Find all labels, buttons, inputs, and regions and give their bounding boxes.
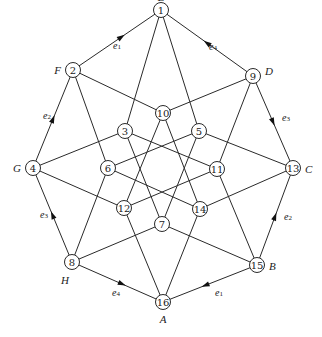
vertex-label-E: E: [157, 0, 165, 3]
vertex-letter-labels: EFGHDCBA: [13, 0, 313, 325]
edge-label-e3: e3: [40, 209, 48, 221]
edge-label-e3: e3: [282, 112, 290, 124]
arrowhead-icon: [117, 280, 126, 288]
node-4: 4: [26, 161, 41, 176]
node-13: 13: [286, 161, 301, 176]
edge-label-e2: e2: [43, 110, 51, 122]
edge-9-10: [163, 76, 253, 113]
arrowhead-icon: [117, 33, 127, 42]
node-number: 8: [69, 257, 75, 268]
edge-label-e1: e1: [113, 40, 121, 52]
edge-label-e4: e4: [209, 41, 217, 53]
node-16: 16: [156, 295, 171, 310]
edge-label-e1: e1: [215, 287, 223, 299]
node-number: 15: [251, 260, 264, 271]
node-12: 12: [117, 201, 132, 216]
edge-9-11: [217, 76, 253, 169]
nodes-layer: 12345678910111213141516: [26, 3, 301, 310]
node-number: 11: [211, 164, 224, 175]
arrowhead-icon: [49, 210, 57, 219]
edge-8-7: [72, 224, 162, 262]
node-3: 3: [118, 124, 133, 139]
edge-15-16: [163, 265, 257, 302]
edge-label-e2: e2: [284, 211, 292, 223]
vertex-label-G: G: [13, 162, 21, 174]
edge-label-e4: e4: [112, 287, 120, 299]
node-number: 9: [250, 71, 256, 82]
node-7: 7: [155, 217, 170, 232]
arrowhead-icon: [269, 117, 277, 126]
node-8: 8: [65, 255, 80, 270]
node-number: 1: [158, 5, 164, 16]
arrowhead-icon: [201, 281, 210, 289]
tesseract-diagram: 12345678910111213141516 EFGHDCBA e1e4e2e…: [0, 0, 322, 337]
node-number: 5: [196, 126, 202, 137]
node-number: 16: [157, 297, 170, 308]
node-11: 11: [210, 162, 225, 177]
node-number: 13: [287, 163, 300, 174]
edge-8-6: [72, 168, 108, 262]
node-14: 14: [193, 202, 208, 217]
node-5: 5: [192, 124, 207, 139]
node-6: 6: [101, 161, 116, 176]
node-10: 10: [156, 106, 171, 121]
vertex-label-F: F: [53, 64, 61, 76]
node-number: 7: [159, 219, 165, 230]
arrowhead-icon: [271, 212, 279, 221]
vertex-label-A: A: [159, 313, 167, 325]
node-number: 10: [157, 108, 170, 119]
edge-direction-arrows: [49, 33, 279, 290]
vertex-label-C: C: [305, 163, 313, 175]
node-number: 4: [30, 163, 36, 174]
node-9: 9: [246, 69, 261, 84]
vertex-label-H: H: [60, 274, 70, 286]
vertex-label-D: D: [264, 65, 273, 77]
node-15: 15: [250, 258, 265, 273]
node-number: 6: [105, 163, 111, 174]
node-number: 3: [122, 126, 128, 137]
vertex-label-B: B: [269, 260, 276, 272]
node-1: 1: [154, 3, 169, 18]
node-number: 2: [70, 65, 76, 76]
node-number: 12: [118, 203, 131, 214]
node-number: 14: [194, 204, 207, 215]
node-2: 2: [66, 63, 81, 78]
